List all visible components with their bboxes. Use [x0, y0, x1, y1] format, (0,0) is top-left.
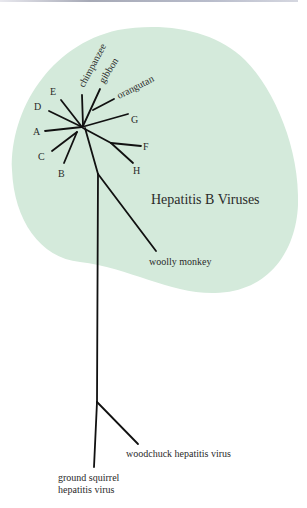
label-C: C: [38, 151, 45, 162]
hepatitis-b-region: [12, 27, 298, 293]
label-D: D: [34, 101, 41, 112]
label-ground-squirrel-line2: hepatitis virus: [58, 484, 114, 495]
label-H: H: [133, 165, 140, 176]
branch-woodchuck: [97, 402, 138, 444]
label-B: B: [58, 168, 65, 179]
label-G: G: [131, 114, 138, 125]
group-label-hepatitis-b: Hepatitis B Viruses: [151, 192, 260, 207]
label-F: F: [143, 141, 149, 152]
label-A: A: [33, 126, 41, 137]
branch-ground-squirrel: [94, 402, 97, 467]
label-woolly-monkey: woolly monkey: [149, 256, 212, 267]
branch-trunk-long: [97, 174, 98, 402]
label-E: E: [50, 86, 56, 97]
phylogenetic-tree-diagram: chimpanzee gibbon orangutan E D A C B G …: [0, 0, 307, 508]
branch-chimpanzee: [82, 95, 83, 126]
label-woodchuck-hepatitis-virus: woodchuck hepatitis virus: [126, 448, 231, 459]
label-ground-squirrel-line1: ground squirrel: [58, 472, 120, 483]
